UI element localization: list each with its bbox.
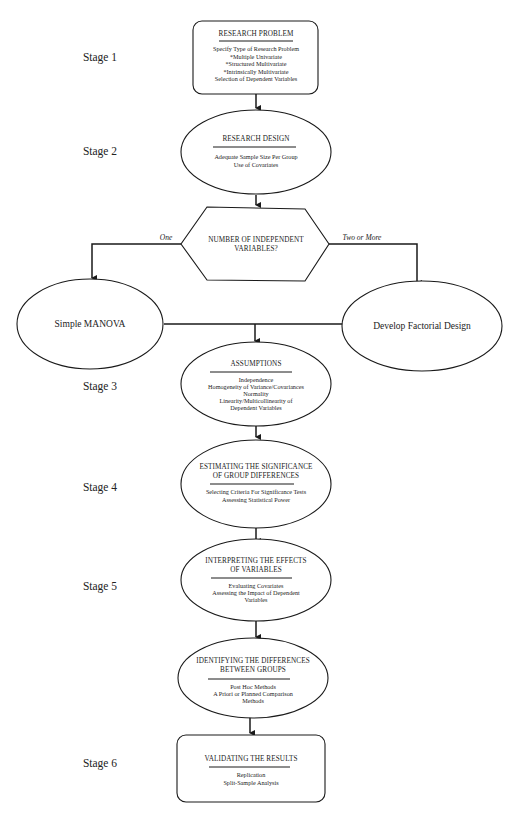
validating-node: VALIDATING THE RESULTS Replication Split… xyxy=(177,735,325,802)
item: *Structured Multivariate xyxy=(226,60,287,67)
item: Methods xyxy=(242,697,264,704)
validating-box xyxy=(177,735,325,802)
stage-3-label: Stage 3 xyxy=(83,380,117,393)
identifying-node: IDENTIFYING THE DIFFERENCES BETWEEN GROU… xyxy=(178,638,328,718)
validating-title: VALIDATING THE RESULTS xyxy=(204,755,297,763)
item: Adequate Sample Size Per Group xyxy=(214,153,297,160)
item: Variables xyxy=(244,596,268,603)
item: Linearity/Multicollinearity of xyxy=(219,397,293,404)
item: Normality xyxy=(243,390,269,397)
identifying-title-line-1: IDENTIFYING THE DIFFERENCES xyxy=(196,657,310,665)
stage-1-label: Stage 1 xyxy=(83,51,117,64)
interpreting-node: INTERPRETING THE EFFECTS OF VARIABLES Ev… xyxy=(181,539,331,621)
factorial-design-title: Develop Factorial Design xyxy=(373,321,471,331)
item: Post Hoc Methods xyxy=(230,683,276,690)
assumptions-title: ASSUMPTIONS xyxy=(230,360,281,368)
significance-title-line-2: OF GROUP DIFFERENCES xyxy=(213,472,299,480)
identifying-title-line-2: BETWEEN GROUPS xyxy=(220,666,286,674)
item: Homogeneity of Variance/Covariances xyxy=(208,383,304,390)
interpreting-title-line-2: OF VARIABLES xyxy=(230,566,281,574)
manova-flowchart: Stage 1 Stage 2 Stage 3 Stage 4 Stage 5 … xyxy=(0,0,505,820)
branch-label-two-or-more: Two or More xyxy=(343,233,382,242)
item: Evaluating Covariates xyxy=(229,582,284,589)
stage-6-label: Stage 6 xyxy=(83,757,117,770)
research-design-title: RESEARCH DESIGN xyxy=(222,135,290,143)
arrow-two-or-more-branch xyxy=(329,244,417,283)
stage-4-label: Stage 4 xyxy=(83,481,117,494)
simple-manova-node: Simple MANOVA xyxy=(17,279,163,369)
research-design-node: RESEARCH DESIGN Adequate Sample Size Per… xyxy=(181,110,331,194)
item: Dependent Variables xyxy=(230,404,282,411)
stage-5-label: Stage 5 xyxy=(83,580,117,593)
decision-hexagon xyxy=(181,207,329,281)
factorial-design-node: Develop Factorial Design xyxy=(342,281,502,371)
item: Replication xyxy=(237,771,266,778)
item: Independence xyxy=(239,376,274,383)
item: Selecting Criteria For Significance Test… xyxy=(206,488,307,495)
item: Assessing the Impact of Dependent xyxy=(212,589,300,596)
research-problem-title: RESEARCH PROBLEM xyxy=(219,30,294,38)
simple-manova-title: Simple MANOVA xyxy=(55,319,126,329)
item: *Multiple Univariate xyxy=(230,53,282,60)
significance-title-line-1: ESTIMATING THE SIGNIFICANCE xyxy=(199,463,313,471)
item: *Intrinsically Multivariate xyxy=(223,68,288,75)
decision-title-line-2: VARIABLES? xyxy=(234,245,278,253)
assumptions-node: ASSUMPTIONS Independence Homogeneity of … xyxy=(181,342,331,426)
item: Specify Type of Research Problem xyxy=(213,45,299,52)
stage-2-label: Stage 2 xyxy=(83,145,117,158)
item: A Priori or Planned Comparison xyxy=(213,690,293,697)
interpreting-title-line-1: INTERPRETING THE EFFECTS xyxy=(205,557,306,565)
branch-label-one: One xyxy=(160,233,173,242)
research-problem-node: RESEARCH PROBLEM Specify Type of Researc… xyxy=(193,21,318,94)
item: Use of Covariates xyxy=(234,161,279,168)
item: Assessing Statistical Power xyxy=(222,496,290,503)
decision-title-line-1: NUMBER OF INDEPENDENT xyxy=(208,236,304,244)
research-design-ellipse xyxy=(181,110,331,194)
item: Split-Sample Analysis xyxy=(223,779,279,786)
item: Selection of Dependent Variables xyxy=(215,75,298,82)
significance-node: ESTIMATING THE SIGNIFICANCE OF GROUP DIF… xyxy=(181,440,331,528)
interpreting-ellipse xyxy=(181,539,331,621)
arrow-one-branch xyxy=(92,244,181,278)
identifying-ellipse xyxy=(178,638,328,718)
